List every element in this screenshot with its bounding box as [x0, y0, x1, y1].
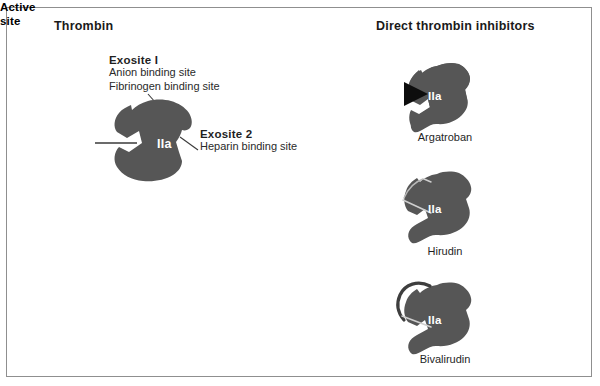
- right-panel-title: Direct thrombin inhibitors: [376, 19, 535, 33]
- callout-exosite-1-line-1: Anion binding site: [109, 66, 220, 80]
- callout-exosite-2-line-1: Heparin binding site: [200, 140, 297, 154]
- callout-exosite-2-heading: Exosite 2: [200, 128, 297, 140]
- left-panel-title: Thrombin: [54, 19, 113, 33]
- callout-active-site: Active site: [0, 0, 36, 28]
- callout-active-site-word-1: Active: [0, 1, 36, 13]
- callout-exosite-1-line-2: Fibrinogen binding site: [109, 80, 220, 94]
- callout-exosite-1: Exosite I Anion binding site Fibrinogen …: [109, 54, 220, 93]
- inhibitor-label-bivalirudin: Bivalirudin: [385, 353, 505, 365]
- callout-exosite-2: Exosite 2 Heparin binding site: [200, 128, 297, 154]
- inhibitor-label-argatroban: Argatroban: [385, 131, 505, 143]
- callout-active-site-word-2: site: [0, 15, 21, 27]
- figure-canvas: Thrombin Exosite I Anion binding site Fi…: [0, 0, 600, 386]
- figure-border: [6, 7, 592, 377]
- inhibitor-label-hirudin: Hirudin: [385, 245, 505, 257]
- callout-exosite-1-heading: Exosite I: [109, 54, 220, 66]
- left-panel: Thrombin Exosite I Anion binding site Fi…: [0, 0, 36, 28]
